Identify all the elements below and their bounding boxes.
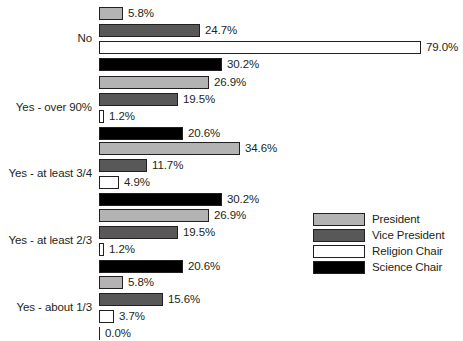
chart-legend: PresidentVice PresidentReligion ChairSci… — [313, 212, 463, 276]
bar-vicepres — [99, 159, 147, 172]
category-label: Yes - at least 2/3 — [0, 234, 92, 247]
bar-value-label: 19.5% — [183, 92, 215, 107]
legend-swatch-religion — [313, 245, 365, 258]
bar-value-label: 1.2% — [109, 109, 135, 124]
bar-row: 34.6% — [99, 142, 463, 155]
bar-value-label: 79.0% — [426, 40, 458, 55]
legend-item[interactable]: President — [313, 212, 463, 228]
legend-label: Science Chair — [372, 260, 442, 275]
bar-row: 30.2% — [99, 193, 463, 206]
bar-science — [99, 127, 183, 140]
bar-value-label: 26.9% — [214, 208, 246, 223]
bar-value-label: 3.7% — [119, 309, 145, 324]
category-group: Yes - over 90%26.9%19.5%1.2%20.6% — [0, 76, 463, 140]
bar-value-label: 20.6% — [188, 126, 220, 141]
bar-science — [99, 260, 183, 273]
bar-value-label: 20.6% — [188, 259, 220, 274]
legend-item[interactable]: Science Chair — [313, 260, 463, 276]
category-group: No5.8%24.7%79.0%30.2% — [0, 7, 463, 71]
bar-president — [99, 76, 209, 89]
category-label: No — [0, 32, 92, 45]
bar-religion — [99, 110, 104, 123]
bar-president — [99, 7, 123, 20]
bar-vicepres — [99, 24, 200, 37]
legend-swatch-vicepres — [313, 229, 365, 242]
bar-row: 5.8% — [99, 7, 463, 20]
legend-label: President — [372, 212, 420, 227]
bar-row: 11.7% — [99, 159, 463, 172]
bar-value-label: 5.8% — [128, 6, 154, 21]
bar-row: 19.5% — [99, 93, 463, 106]
bar-value-label: 30.2% — [227, 57, 259, 72]
bar-value-label: 0.0% — [105, 326, 131, 341]
bar-value-label: 11.7% — [152, 158, 183, 173]
bar-value-label: 30.2% — [227, 192, 259, 207]
bar-religion — [99, 310, 114, 323]
bar-religion — [99, 243, 104, 256]
category-label: Yes - at least 3/4 — [0, 167, 92, 180]
bar-science — [99, 193, 222, 206]
bar-value-label: 1.2% — [109, 242, 135, 257]
bar-value-label: 15.6% — [168, 292, 200, 307]
bar-row: 20.6% — [99, 127, 463, 140]
bar-science — [99, 327, 100, 340]
bar-value-label: 5.8% — [128, 275, 154, 290]
bar-row: 24.7% — [99, 24, 463, 37]
bar-value-label: 19.5% — [183, 225, 215, 240]
bar-row: 79.0% — [99, 41, 463, 54]
category-label: Yes - about 1/3 — [0, 301, 92, 314]
category-group: Yes - at least 3/434.6%11.7%4.9%30.2% — [0, 142, 463, 206]
bar-president — [99, 276, 123, 289]
legend-swatch-science — [313, 261, 365, 274]
bar-value-label: 34.6% — [245, 141, 277, 156]
bar-row: 1.2% — [99, 110, 463, 123]
category-group: Yes - about 1/35.8%15.6%3.7%0.0% — [0, 276, 463, 340]
bar-president — [99, 209, 209, 222]
bar-religion — [99, 41, 421, 54]
bar-vicepres — [99, 93, 178, 106]
bar-science — [99, 58, 222, 71]
bar-vicepres — [99, 226, 178, 239]
bar-row: 0.0% — [99, 327, 463, 340]
bar-row: 4.9% — [99, 176, 463, 189]
bar-row: 26.9% — [99, 76, 463, 89]
legend-label: Religion Chair — [372, 244, 443, 259]
bar-row: 15.6% — [99, 293, 463, 306]
bar-row: 30.2% — [99, 58, 463, 71]
bar-vicepres — [99, 293, 163, 306]
bar-value-label: 26.9% — [214, 75, 246, 90]
legend-label: Vice President — [372, 228, 445, 243]
legend-item[interactable]: Vice President — [313, 228, 463, 244]
bar-row: 5.8% — [99, 276, 463, 289]
category-label: Yes - over 90% — [0, 101, 92, 114]
legend-swatch-president — [313, 213, 365, 226]
bar-row: 3.7% — [99, 310, 463, 323]
legend-item[interactable]: Religion Chair — [313, 244, 463, 260]
bar-president — [99, 142, 240, 155]
bar-value-label: 24.7% — [205, 23, 237, 38]
bar-value-label: 4.9% — [124, 175, 150, 190]
bar-religion — [99, 176, 119, 189]
